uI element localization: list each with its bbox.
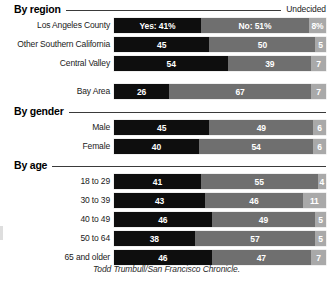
bar-segment-yes: 40	[114, 139, 199, 154]
bar-segment-undecided: 7	[311, 56, 326, 71]
bar-segment-yes: 54	[114, 56, 228, 71]
bar-segment-yes: 41	[114, 174, 201, 189]
bar-segment-no: 49	[209, 120, 313, 135]
chart-row: Los Angeles CountyYes: 41%No: 51%8%	[0, 18, 333, 33]
bar-segment-no: 47	[212, 250, 312, 265]
bar-segment-yes: Yes: 41%	[114, 18, 201, 33]
bar-segment-yes: 46	[114, 212, 212, 227]
bar-segment-undecided: 7	[311, 250, 326, 265]
bar-segment-no: No: 51%	[201, 18, 309, 33]
chart-row: 50 to 6438575	[0, 231, 333, 246]
section-header-by-region: By regionUndecided	[14, 2, 326, 15]
section-rule	[69, 112, 326, 113]
chart-row: Other Southern California45505	[0, 37, 333, 52]
row-category-label: 18 to 29	[80, 174, 110, 189]
stacked-bar: 45505	[114, 37, 326, 52]
bar-segment-yes: 45	[114, 37, 209, 52]
chart-row: Central Valley54397	[0, 56, 333, 71]
bar-segment-undecided: 5	[315, 212, 326, 227]
row-category-label: 30 to 39	[80, 193, 110, 208]
stacked-bar: 46477	[114, 250, 326, 265]
chart-row: Female40546	[0, 139, 333, 154]
poll-results-chart: By regionUndecidedLos Angeles CountyYes:…	[0, 0, 333, 282]
bar-segment-undecided: 6	[313, 139, 326, 154]
section-rule	[66, 10, 282, 11]
bar-segment-yes: 46	[114, 250, 212, 265]
row-category-label: Bay Area	[77, 84, 110, 99]
bar-segment-yes: 45	[114, 120, 209, 135]
chart-row: 30 to 39434611	[0, 193, 333, 208]
row-category-label: Central Valley	[60, 56, 110, 71]
chart-row: Male45496	[0, 120, 333, 135]
stacked-bar: 40546	[114, 139, 326, 154]
row-category-label: Los Angeles County	[37, 18, 110, 33]
stacked-bar: 26677	[114, 84, 326, 99]
bar-segment-no: 50	[209, 37, 315, 52]
bar-segment-yes: 26	[114, 84, 169, 99]
bar-segment-no: 46	[205, 193, 303, 208]
legend-undecided-label: Undecided	[286, 4, 326, 14]
bar-segment-undecided: 8%	[309, 18, 326, 33]
chart-row: 65 and older46477	[0, 250, 333, 265]
section-title: By gender	[14, 105, 64, 117]
section-rule	[52, 166, 326, 167]
scan-edge-artifact	[0, 226, 3, 240]
row-category-label: 65 and older	[65, 250, 110, 265]
bar-segment-undecided: 4	[318, 174, 326, 189]
chart-credit: Todd Trumbull/San Francisco Chronicle.	[0, 264, 333, 274]
bar-segment-no: 67	[169, 84, 311, 99]
chart-row: 40 to 4946495	[0, 212, 333, 227]
stacked-bar: 46495	[114, 212, 326, 227]
row-category-label: 50 to 64	[80, 231, 110, 246]
row-category-label: Female	[83, 139, 110, 154]
chart-row: 18 to 2941554	[0, 174, 333, 189]
bar-segment-no: 57	[195, 231, 316, 246]
bar-segment-no: 55	[201, 174, 318, 189]
bar-segment-no: 49	[212, 212, 316, 227]
bar-segment-undecided: 5	[315, 231, 326, 246]
bar-segment-undecided: 5	[315, 37, 326, 52]
section-title: By region	[14, 3, 61, 15]
stacked-bar: 45496	[114, 120, 326, 135]
section-header-by-gender: By gender	[14, 104, 326, 117]
chart-row: Bay Area26677	[0, 84, 333, 99]
bar-segment-undecided: 7	[311, 84, 326, 99]
stacked-bar: Yes: 41%No: 51%8%	[114, 18, 326, 33]
row-category-label: Other Southern California	[17, 37, 110, 52]
section-title: By age	[14, 159, 47, 171]
row-category-label: Male	[92, 120, 110, 135]
stacked-bar: 54397	[114, 56, 326, 71]
bar-segment-undecided: 11	[303, 193, 326, 208]
bar-segment-no: 54	[199, 139, 313, 154]
bar-segment-yes: 43	[114, 193, 205, 208]
bar-segment-yes: 38	[114, 231, 195, 246]
stacked-bar: 434611	[114, 193, 326, 208]
section-header-by-age: By age	[14, 158, 326, 171]
bar-segment-undecided: 6	[313, 120, 326, 135]
stacked-bar: 41554	[114, 174, 326, 189]
row-category-label: 40 to 49	[80, 212, 110, 227]
bar-segment-no: 39	[228, 56, 311, 71]
stacked-bar: 38575	[114, 231, 326, 246]
